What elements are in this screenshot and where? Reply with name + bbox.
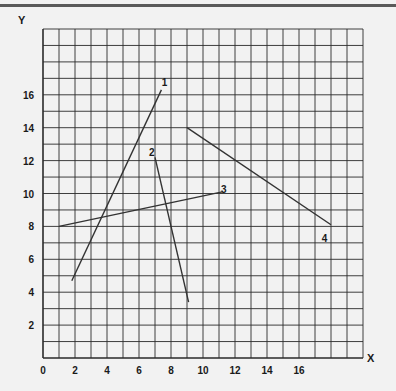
line-label-2: 2 [149,147,155,158]
y-tick-label: 10 [23,189,35,200]
tick-labels: 0246810121416246810121416 [23,90,305,376]
x-tick-label: 2 [72,365,78,376]
y-tick-label: 8 [28,221,34,232]
y-tick-label: 14 [23,123,35,134]
x-tick-label: 16 [293,365,305,376]
x-tick-label: 8 [168,365,174,376]
x-tick-label: 6 [136,365,142,376]
x-tick-label: 4 [104,365,110,376]
y-tick-label: 6 [28,254,34,265]
line-label-1: 1 [162,77,168,88]
line-label-4: 4 [322,233,328,244]
x-tick-label: 0 [40,365,46,376]
x-tick-label: 14 [261,365,273,376]
x-tick-label: 12 [229,365,241,376]
y-tick-label: 2 [28,320,34,331]
line-1 [72,90,162,281]
y-axis-title: Y [18,14,26,26]
y-tick-label: 16 [23,90,35,101]
x-tick-label: 10 [197,365,209,376]
grid [43,29,363,358]
data-lines [59,90,331,302]
line-label-3: 3 [221,184,227,195]
line-chart: 0246810121416246810121416 1234 Y X [0,0,396,391]
line-3 [59,192,222,227]
y-tick-label: 12 [23,156,35,167]
line-2 [155,157,189,302]
x-axis-title: X [367,352,375,364]
y-tick-label: 4 [28,287,34,298]
